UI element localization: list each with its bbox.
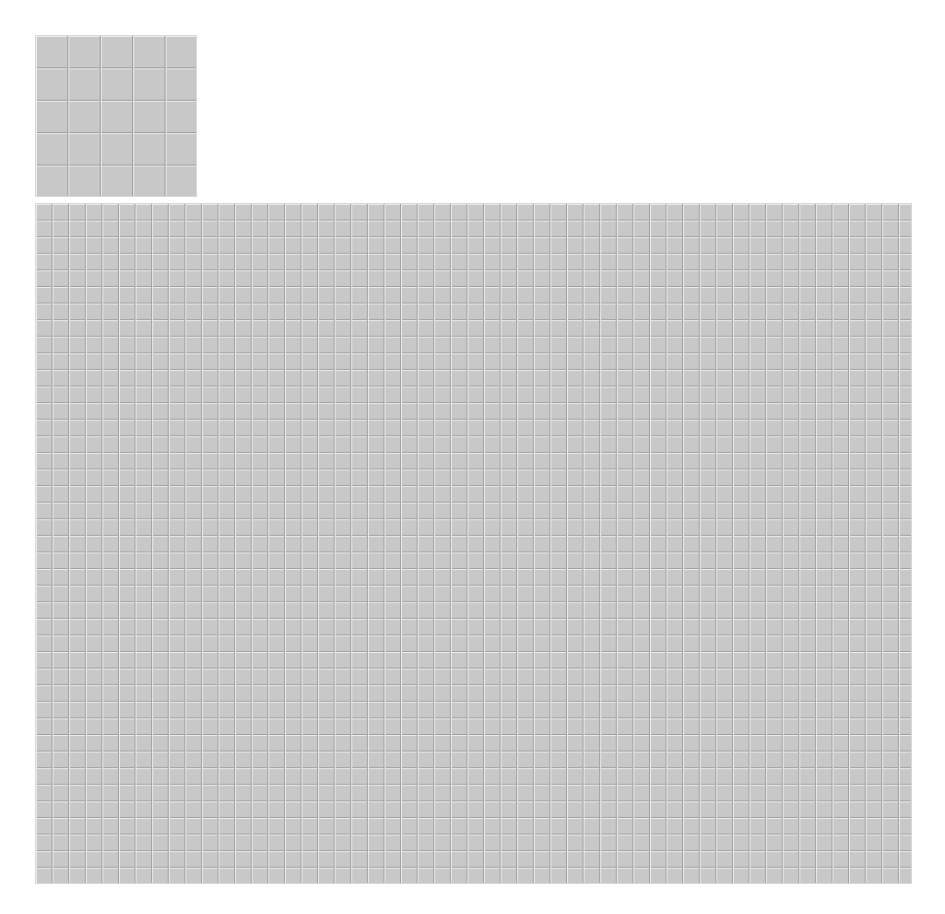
- large-texture-panel: [35, 203, 912, 884]
- small-texture-panel: [35, 35, 197, 197]
